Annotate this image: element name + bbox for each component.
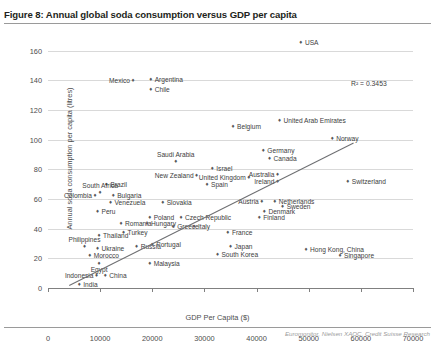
x-tick-mark: [413, 288, 414, 292]
data-point-label: Peru: [102, 208, 116, 215]
y-tick-label: 40: [12, 225, 42, 234]
data-point-label: Australia: [249, 171, 275, 178]
data-point: [131, 78, 135, 82]
data-point: [192, 224, 196, 228]
data-point: [257, 215, 261, 219]
data-point-label: Slovakia: [167, 199, 192, 206]
data-point-label: South Korea: [221, 251, 258, 258]
data-point: [161, 200, 165, 204]
data-point: [210, 166, 214, 170]
data-point: [148, 215, 152, 219]
data-point: [103, 273, 107, 277]
y-tick-label: 20: [12, 254, 42, 263]
gridline: [48, 51, 413, 52]
y-axis-title: Annual soda consumption per capita (litr…: [65, 34, 74, 284]
x-tick-label: 30000: [179, 334, 229, 342]
data-point: [278, 118, 282, 122]
data-point-label: Italy: [198, 223, 210, 230]
x-tick-mark: [152, 288, 153, 292]
x-tick-mark: [257, 288, 258, 292]
data-point-label: Mexico: [109, 77, 130, 84]
data-point-label: United Arab Emirates: [284, 117, 346, 124]
data-point-label: Turkey: [128, 229, 148, 236]
data-point: [97, 261, 101, 265]
data-point: [338, 253, 342, 257]
x-tick-label: 40000: [232, 334, 282, 342]
data-point: [268, 156, 272, 160]
gridline: [48, 199, 413, 200]
data-point-label: United Kingdom: [199, 174, 246, 181]
gridline: [48, 229, 413, 230]
data-point: [94, 273, 98, 277]
data-point: [299, 40, 303, 44]
data-point: [149, 77, 153, 81]
data-point-label: Malaysia: [154, 260, 180, 267]
data-point: [346, 179, 350, 183]
y-tick-label: 120: [12, 106, 42, 115]
data-point-label: Chile: [155, 86, 170, 93]
data-point: [171, 224, 175, 228]
data-point-label: France: [232, 229, 253, 236]
data-point: [145, 221, 149, 225]
data-point: [215, 252, 219, 256]
data-point-label: Israel: [216, 165, 232, 172]
data-point: [96, 209, 100, 213]
data-point: [229, 244, 233, 248]
x-tick-mark: [100, 288, 101, 292]
data-point-label: India: [83, 281, 97, 288]
data-point: [96, 246, 100, 250]
data-point-label: Spain: [211, 181, 228, 188]
data-point: [330, 136, 334, 140]
data-point: [205, 182, 209, 186]
x-tick-mark: [361, 288, 362, 292]
title-divider: [4, 23, 431, 24]
y-tick-label: 60: [12, 195, 42, 204]
data-point: [262, 209, 266, 213]
data-point: [226, 230, 230, 234]
y-tick-label: 160: [12, 47, 42, 56]
y-tick-label: 100: [12, 136, 42, 145]
footer-divider: [4, 327, 431, 328]
data-point: [179, 215, 183, 219]
x-tick-label: 10000: [75, 334, 125, 342]
figure-panel: Figure 8: Annual global soda consumption…: [0, 0, 435, 342]
data-point: [83, 244, 87, 248]
data-point: [77, 282, 81, 286]
x-tick-mark: [48, 288, 49, 292]
data-point-label: New Zealand: [155, 172, 194, 179]
data-point-label: Finland: [263, 214, 285, 221]
x-tick-mark: [204, 288, 205, 292]
data-point-label: Bulgaria: [117, 192, 141, 199]
data-point-label: Argentina: [155, 76, 183, 83]
data-point-label: Thailand: [103, 232, 128, 239]
scatter-plot-area: 020406080100120140160 010000200003000040…: [48, 36, 413, 288]
source-caption: Euromonitor, Nielsen XAOC, Credit Suisse…: [285, 330, 430, 337]
data-point-label: Singapore: [344, 252, 374, 259]
data-point-label: Japan: [235, 243, 253, 250]
data-point: [174, 159, 178, 163]
data-point: [304, 247, 308, 251]
x-tick-mark: [309, 288, 310, 292]
data-point-label: China: [109, 272, 126, 279]
data-point: [148, 261, 152, 265]
data-point-label: Norway: [336, 135, 358, 142]
data-point: [93, 193, 97, 197]
x-tick-label: 20000: [127, 334, 177, 342]
data-point: [109, 200, 113, 204]
x-tick-label: 0: [23, 334, 73, 342]
data-point: [88, 253, 92, 257]
data-point-label: Ukraine: [102, 245, 125, 252]
data-point-label: USA: [305, 39, 319, 46]
data-point-label: Saudi Arabia: [157, 151, 194, 158]
y-tick-label: 0: [12, 284, 42, 293]
gridline: [48, 110, 413, 111]
data-point-label: South Africa: [82, 182, 118, 189]
data-point: [231, 124, 235, 128]
data-point-label: Switzerland: [352, 178, 386, 185]
data-point: [149, 87, 153, 91]
data-point: [98, 190, 102, 194]
data-point-label: Morocco: [94, 252, 119, 259]
figure-title: Figure 8: Annual global soda consumption…: [4, 9, 297, 20]
x-axis-line: [48, 288, 413, 289]
y-tick-label: 140: [12, 76, 42, 85]
